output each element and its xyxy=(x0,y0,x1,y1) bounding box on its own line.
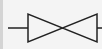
gate-valve-icon xyxy=(0,0,102,49)
valve-body xyxy=(28,14,97,42)
valve-diagram xyxy=(0,0,102,49)
